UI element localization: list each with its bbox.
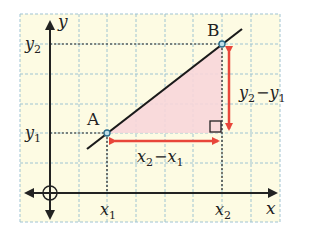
point-a-marker xyxy=(104,130,110,136)
rise-label: y2−y1 xyxy=(238,83,286,105)
gradient-diagram: A B y x y2 y1 x1 x2 x2−x1 y2−y1 xyxy=(0,0,312,232)
diagram-canvas: A B y x y2 y1 x1 x2 x2−x1 y2−y1 xyxy=(0,0,312,232)
x-axis-label: x xyxy=(266,198,276,218)
y-axis-label: y xyxy=(57,11,68,31)
point-b-marker xyxy=(219,41,225,47)
point-a-label: A xyxy=(86,109,100,129)
point-b-label: B xyxy=(207,20,220,40)
